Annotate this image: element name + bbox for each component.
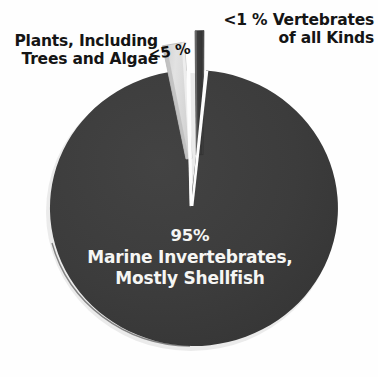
pie-label-plants-line2: Trees and Algae (6, 51, 158, 69)
pie-label-vertebrates-line2: of all Kinds (206, 30, 374, 48)
pie-label-vertebrates: <1 % Vertebrates of all Kinds (206, 12, 374, 47)
pie-label-plants: Plants, Including Trees and Algae (6, 33, 158, 68)
pie-label-marine-invertebrates: 95% Marine Invertebrates, Mostly Shellfi… (42, 226, 338, 289)
pie-label-marine-line2: Mostly Shellfish (42, 268, 338, 289)
pie-chart-figure: Plants, Including Trees and Algae <1 % V… (0, 0, 378, 377)
pie-label-plants-line1: Plants, Including (6, 33, 158, 51)
pie-label-marine-line1: Marine Invertebrates, (42, 247, 338, 268)
pie-value-label-marine-invertebrates: 95% (42, 226, 338, 246)
pie-label-vertebrates-line1: <1 % Vertebrates (206, 12, 374, 30)
